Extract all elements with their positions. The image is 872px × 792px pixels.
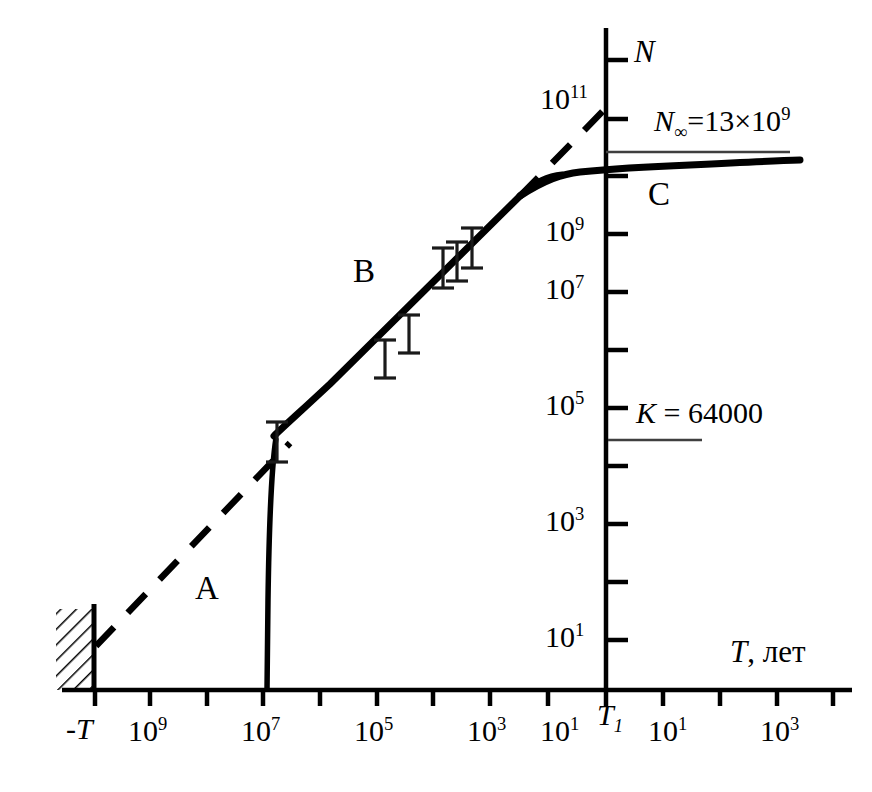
x-tick-exp: 3 <box>497 713 506 734</box>
y-tick-base: 10 <box>545 620 575 653</box>
neg-t-sign: - <box>66 712 76 745</box>
branch-a-vertical-drop <box>267 438 276 690</box>
x-tick-base: 10 <box>760 714 790 747</box>
x-tick-base: 10 <box>241 714 271 747</box>
x-tick-label-10e3-left: 103 <box>467 716 506 746</box>
y-tick-exp: 1 <box>575 619 584 640</box>
hatched-barrier <box>56 604 94 690</box>
x-tick-label-10e7: 107 <box>241 716 280 746</box>
y-tick-exp: 3 <box>575 503 584 524</box>
k-symbol: K <box>636 396 656 429</box>
x-axis-label-unit: , лет <box>747 634 805 669</box>
y-tick-label-10e1: 101 <box>545 622 584 652</box>
y-tick-exp: 7 <box>575 271 584 292</box>
branch-b-main-curve <box>274 175 562 436</box>
x-origin-label-T1: T1 <box>597 700 623 730</box>
error-bar <box>398 315 420 353</box>
y-tick-label-10e7: 107 <box>545 274 584 304</box>
x-tick-label-10e3-right: 103 <box>760 716 799 746</box>
y-tick-exp: 9 <box>575 213 584 234</box>
y-tick-base: 10 <box>540 82 570 115</box>
x-tick-exp: 9 <box>158 713 167 734</box>
x-tick-base: 10 <box>467 714 497 747</box>
branch-a-dashed-curve <box>96 443 290 646</box>
x-axis-label-symbol: T <box>730 634 747 669</box>
x-tick-label-10e1-left: 101 <box>540 716 579 746</box>
error-bar <box>374 340 396 378</box>
phase-label-b: B <box>353 255 375 288</box>
x-tick-label-10e1-right: 101 <box>648 716 687 746</box>
y-tick-exp: 11 <box>570 81 588 102</box>
x-axis-ticks <box>95 690 833 706</box>
phase-label-c: C <box>648 178 670 211</box>
t1-base: T <box>597 698 614 731</box>
x-axis-label: T, лет <box>730 636 806 667</box>
x-tick-base: 10 <box>128 714 158 747</box>
x-tick-label-10e9: 109 <box>128 716 167 746</box>
n-inf-symbol: N <box>654 104 674 137</box>
x-tick-base: 10 <box>354 714 384 747</box>
k-value: = 64000 <box>656 396 763 429</box>
y-tick-base: 10 <box>545 504 575 537</box>
n-inf-subscript: ∞ <box>674 121 687 142</box>
y-tick-label-10e5: 105 <box>545 390 584 420</box>
y-axis-ticks <box>606 60 628 640</box>
branch-b-dashed-continuation <box>520 110 604 196</box>
y-tick-base: 10 <box>545 214 575 247</box>
x-tick-base: 10 <box>540 714 570 747</box>
y-tick-base: 10 <box>545 272 575 305</box>
y-tick-label-10e3: 103 <box>545 506 584 536</box>
x-tick-exp: 3 <box>790 713 799 734</box>
n-inf-exponent: 9 <box>781 103 790 124</box>
x-tick-exp: 1 <box>570 713 579 734</box>
n-infinity-annotation: N∞=13×109 <box>654 106 790 136</box>
y-tick-label-10e11: 1011 <box>540 84 588 114</box>
x-tick-exp: 1 <box>678 713 687 734</box>
y-tick-exp: 5 <box>575 387 584 408</box>
y-tick-base: 10 <box>545 388 575 421</box>
y-tick-label-10e9: 109 <box>545 216 584 246</box>
neg-t-symbol: T <box>76 712 93 745</box>
x-tick-exp: 7 <box>271 713 280 734</box>
n-inf-value: =13×10 <box>687 104 781 137</box>
y-axis-label: N <box>634 36 655 67</box>
k-annotation: K = 64000 <box>636 398 763 428</box>
x-tick-exp: 5 <box>384 713 393 734</box>
t1-sub: 1 <box>614 715 623 736</box>
phase-label-a: A <box>195 572 219 605</box>
x-tick-label-negative-T: -T <box>66 714 93 744</box>
chart-figure: N T, лет 101 103 105 107 109 1011 -T 109… <box>0 0 872 792</box>
x-tick-label-10e5: 105 <box>354 716 393 746</box>
x-tick-base: 10 <box>648 714 678 747</box>
